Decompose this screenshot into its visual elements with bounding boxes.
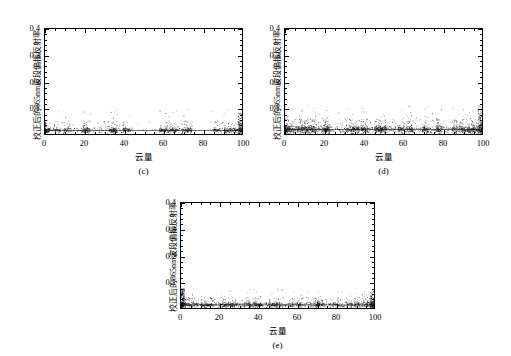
- y-major-tick: [478, 29, 482, 30]
- y-minor-tick: [372, 219, 374, 220]
- y-minor-tick: [240, 115, 242, 116]
- x-tick-label: 0: [166, 313, 194, 322]
- x-major-tick: [404, 130, 405, 134]
- y-minor-tick: [372, 289, 374, 290]
- panel-c-scatter-layer: [45, 29, 242, 134]
- x-minor-tick: [145, 29, 146, 31]
- y-minor-tick: [181, 267, 183, 268]
- y-minor-tick: [240, 61, 242, 62]
- x-minor-tick: [305, 132, 306, 134]
- panel-e-label: (e): [180, 340, 375, 350]
- y-minor-tick: [372, 273, 374, 274]
- y-minor-tick: [45, 40, 47, 41]
- y-minor-tick: [372, 246, 374, 247]
- y-minor-tick: [480, 72, 482, 73]
- y-minor-tick: [45, 104, 47, 105]
- y-minor-tick: [480, 131, 482, 132]
- x-minor-tick: [394, 132, 395, 134]
- y-major-tick: [370, 283, 374, 284]
- x-tick-label: 40: [244, 313, 272, 322]
- x-minor-tick: [105, 29, 106, 31]
- x-minor-tick: [65, 29, 66, 31]
- x-minor-tick: [464, 132, 465, 134]
- x-minor-tick: [95, 29, 96, 31]
- x-minor-tick: [154, 29, 155, 31]
- y-minor-tick: [285, 93, 287, 94]
- x-minor-tick: [345, 29, 346, 31]
- x-minor-tick: [318, 203, 319, 205]
- x-minor-tick: [191, 306, 192, 308]
- panel-c-label: (c): [44, 166, 243, 176]
- x-minor-tick: [279, 203, 280, 205]
- x-minor-tick: [474, 132, 475, 134]
- x-minor-tick: [414, 29, 415, 31]
- y-minor-tick: [480, 120, 482, 121]
- y-minor-tick: [480, 66, 482, 67]
- x-minor-tick: [295, 132, 296, 134]
- y-major-tick: [238, 56, 242, 57]
- x-minor-tick: [355, 29, 356, 31]
- x-major-tick: [365, 130, 366, 134]
- x-minor-tick: [95, 132, 96, 134]
- y-minor-tick: [45, 66, 47, 67]
- x-tick-label: 60: [389, 139, 417, 148]
- x-minor-tick: [210, 203, 211, 205]
- y-minor-tick: [240, 131, 242, 132]
- y-minor-tick: [480, 34, 482, 35]
- x-minor-tick: [174, 132, 175, 134]
- x-minor-tick: [434, 132, 435, 134]
- y-minor-tick: [480, 40, 482, 41]
- x-minor-tick: [454, 132, 455, 134]
- y-minor-tick: [45, 115, 47, 116]
- y-minor-tick: [45, 34, 47, 35]
- x-minor-tick: [234, 29, 235, 31]
- x-tick-label: 60: [149, 139, 177, 148]
- x-minor-tick: [184, 29, 185, 31]
- x-major-tick: [204, 130, 205, 134]
- x-tick-label: 60: [283, 313, 311, 322]
- y-minor-tick: [181, 289, 183, 290]
- y-major-tick: [285, 83, 289, 84]
- x-minor-tick: [240, 203, 241, 205]
- y-minor-tick: [372, 214, 374, 215]
- x-major-tick: [404, 29, 405, 33]
- y-minor-tick: [45, 45, 47, 46]
- y-minor-tick: [480, 61, 482, 62]
- y-minor-tick: [372, 278, 374, 279]
- x-tick-label: 20: [205, 313, 233, 322]
- x-major-tick: [164, 29, 165, 33]
- x-minor-tick: [288, 203, 289, 205]
- y-minor-tick: [181, 251, 183, 252]
- x-tick-label: 0: [30, 139, 58, 148]
- y-minor-tick: [372, 240, 374, 241]
- x-minor-tick: [385, 132, 386, 134]
- x-minor-tick: [305, 29, 306, 31]
- y-minor-tick: [285, 45, 287, 46]
- x-minor-tick: [288, 306, 289, 308]
- y-minor-tick: [372, 262, 374, 263]
- x-minor-tick: [295, 29, 296, 31]
- x-minor-tick: [308, 306, 309, 308]
- x-minor-tick: [366, 203, 367, 205]
- x-minor-tick: [308, 203, 309, 205]
- x-minor-tick: [454, 29, 455, 31]
- y-minor-tick: [181, 278, 183, 279]
- y-minor-tick: [285, 61, 287, 62]
- x-major-tick: [45, 130, 46, 134]
- x-minor-tick: [249, 306, 250, 308]
- x-minor-tick: [55, 29, 56, 31]
- y-major-tick: [181, 257, 185, 258]
- y-minor-tick: [181, 208, 183, 209]
- x-minor-tick: [191, 203, 192, 205]
- panel-d-label: (d): [284, 166, 483, 176]
- x-major-tick: [325, 29, 326, 33]
- x-minor-tick: [464, 29, 465, 31]
- x-minor-tick: [65, 132, 66, 134]
- x-minor-tick: [115, 132, 116, 134]
- y-tick-label: 0.2: [156, 252, 176, 261]
- x-minor-tick: [347, 203, 348, 205]
- y-minor-tick: [285, 50, 287, 51]
- y-major-tick: [45, 56, 49, 57]
- x-minor-tick: [375, 132, 376, 134]
- panel-d-x-axis-title: 云量: [284, 150, 483, 162]
